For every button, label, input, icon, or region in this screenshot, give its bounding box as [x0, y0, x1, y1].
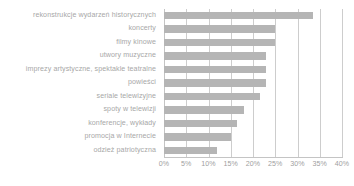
- bar: [164, 66, 266, 74]
- category-label: utwory muzyczne: [0, 49, 160, 62]
- category-label: powieści: [0, 76, 160, 89]
- bar-row: [164, 117, 342, 130]
- category-label: spoty w telewizji: [0, 103, 160, 116]
- bar-chart: rekonstrukcje wydarzeń historycznych kon…: [0, 0, 354, 186]
- bar: [164, 93, 260, 101]
- bar-row: [164, 103, 342, 116]
- x-tick-label: 25%: [268, 160, 283, 168]
- plot-area: [164, 9, 342, 157]
- bar: [164, 25, 275, 33]
- category-label: seriale telewizyjne: [0, 90, 160, 103]
- bar: [164, 39, 275, 47]
- bar-row: [164, 49, 342, 62]
- bar-row: [164, 76, 342, 89]
- category-label: koncerty: [0, 22, 160, 35]
- value-axis: 0%5%10%15%20%25%30%35%40%: [164, 160, 342, 172]
- x-axis-line: [164, 157, 343, 158]
- bar-row: [164, 36, 342, 49]
- bar: [164, 120, 237, 128]
- bar-row: [164, 9, 342, 22]
- bar-series: [164, 9, 342, 157]
- category-label: odzież patriotyczna: [0, 144, 160, 157]
- x-tick-label: 40%: [335, 160, 350, 168]
- bar: [164, 147, 217, 155]
- x-tick-label: 15%: [224, 160, 239, 168]
- x-tick-label: 35%: [313, 160, 328, 168]
- x-tick-label: 20%: [246, 160, 261, 168]
- bar-row: [164, 63, 342, 76]
- category-label: imprezy artystyczne, spektakle teatralne: [0, 63, 160, 76]
- x-tick-label: 10%: [201, 160, 216, 168]
- category-label: konferencje, wykłady: [0, 117, 160, 130]
- bar: [164, 52, 266, 60]
- category-label: promocja w Internecie: [0, 130, 160, 143]
- x-tick-label: 30%: [290, 160, 305, 168]
- gridline: [342, 9, 343, 157]
- bar: [164, 12, 313, 20]
- bar: [164, 79, 266, 87]
- bar-row: [164, 22, 342, 35]
- bar: [164, 133, 231, 141]
- x-tick-label: 5%: [181, 160, 191, 168]
- bar-row: [164, 144, 342, 157]
- category-axis: rekonstrukcje wydarzeń historycznych kon…: [0, 9, 160, 157]
- category-label: filmy kinowe: [0, 36, 160, 49]
- bar-row: [164, 90, 342, 103]
- bar-row: [164, 130, 342, 143]
- category-label: rekonstrukcje wydarzeń historycznych: [0, 9, 160, 22]
- x-tick-label: 0%: [159, 160, 169, 168]
- bar: [164, 106, 244, 114]
